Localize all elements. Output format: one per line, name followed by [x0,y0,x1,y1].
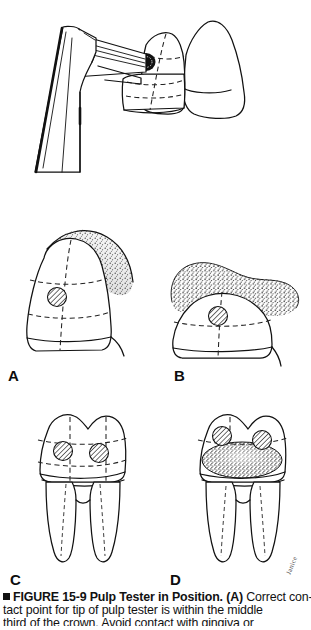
caption-line-3: third of the crown. Avoid contact with g… [3,617,309,626]
panel-top-pulp-tester-in-position [0,0,311,175]
molar-crown-c [40,415,126,482]
restoration-stipple-d [202,442,282,478]
panel-b-gingival-contact [160,230,308,372]
panel-label-d: D [170,572,181,587]
caption-line-3-clipped: third of the crown. Avoid contact with g… [3,617,309,626]
panel-label-b: B [174,368,185,383]
root-tail-b [272,347,281,366]
contact-point-circle-a [48,288,67,307]
contact-point-circle-b [209,307,228,326]
pulp-tester-handle [35,26,95,172]
contact-point-circle-d2 [253,431,272,450]
root-furcation-c [76,500,90,503]
panel-label-a: A [8,368,19,383]
contact-point-circle-c2 [90,444,109,463]
contact-point-circle-c1 [54,442,73,461]
contact-point-circle-d1 [213,427,232,446]
panel-label-c: C [10,572,21,587]
panel-d-molar-with-restoration [186,400,311,572]
figure-page: A [0,0,311,630]
caption-bold-lead: FIGURE 15-9 Pulp Tester in Position. (A) [13,590,243,604]
caption-line-1-rest: Correct con- [243,590,311,604]
square-bullet-icon [3,593,10,600]
root-tail-a [111,337,124,356]
figure-caption: FIGURE 15-9 Pulp Tester in Position. (A)… [3,591,309,626]
root-furcation-d [236,500,250,503]
panel-a-correct-contact-point [14,222,159,372]
panel-c-molar-correct-contact [26,400,156,572]
caption-line-2: tact point for tip of pulp tester is wit… [3,604,309,617]
